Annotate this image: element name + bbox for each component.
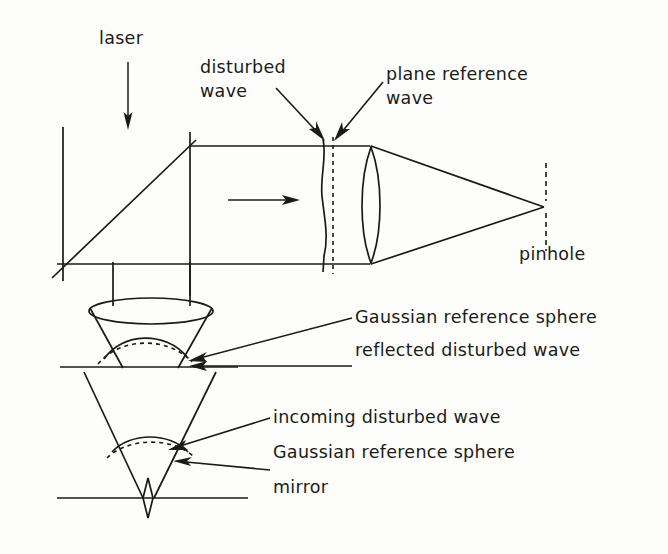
leader-reflected-disturbed-wave <box>189 361 352 371</box>
collimated-beam-direction-arrow <box>228 195 300 205</box>
diagram-canvas: laser disturbed wave plane reference wav… <box>0 0 668 554</box>
label-disturbed-wave-line2: wave <box>200 81 247 103</box>
leader-gaussian-sphere-lower <box>173 457 270 470</box>
label-gaussian-reference-sphere-lower: Gaussian reference sphere <box>273 442 515 464</box>
objective-lens-ellipse <box>89 298 213 324</box>
lower-converging-cone <box>84 372 216 498</box>
leader-plane-reference-wave <box>334 82 383 141</box>
label-plane-reference-wave-line1: plane reference <box>386 64 528 86</box>
leader-disturbed-wave <box>276 88 325 141</box>
focusing-lens <box>362 147 380 263</box>
label-pinhole: pinhole <box>519 244 586 266</box>
laser-beam-arrow <box>124 62 133 130</box>
disturbed-wavefront <box>322 139 327 272</box>
leader-gaussian-sphere-upper <box>188 318 352 362</box>
label-plane-reference-wave-line2: wave <box>386 88 433 110</box>
label-disturbed-wave-line1: disturbed <box>200 57 286 79</box>
label-laser: laser <box>99 28 143 50</box>
optical-diagram-svg <box>0 0 668 554</box>
label-mirror: mirror <box>273 477 328 499</box>
label-reflected-disturbed-wave: reflected disturbed wave <box>355 340 580 362</box>
leader-incoming-disturbed-wave <box>168 418 270 450</box>
gaussian-sphere-upper <box>98 343 192 364</box>
beam-splitter <box>52 140 196 278</box>
label-gaussian-reference-sphere-upper: Gaussian reference sphere <box>355 307 597 329</box>
label-incoming-disturbed-wave: incoming disturbed wave <box>273 407 501 429</box>
